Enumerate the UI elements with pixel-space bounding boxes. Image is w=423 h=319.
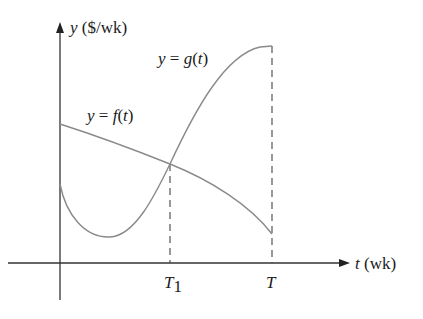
x-axis-arrow-icon xyxy=(339,259,350,267)
curve-g xyxy=(60,46,272,237)
x-axis-label: t (wk) xyxy=(355,254,396,273)
tick-label-t1: T1 xyxy=(164,273,182,296)
y-axis-label: y ($/wk) xyxy=(68,18,127,37)
curve-f xyxy=(60,124,272,234)
y-axis-arrow-icon xyxy=(56,22,64,33)
g-curve-label: y = g(t) xyxy=(156,49,208,68)
tick-label-t: T xyxy=(266,273,277,292)
f-curve-label: y = f(t) xyxy=(85,106,133,125)
diagram: y ($/wk) y = g(t) y = f(t) T1 T t (wk) xyxy=(0,0,423,319)
